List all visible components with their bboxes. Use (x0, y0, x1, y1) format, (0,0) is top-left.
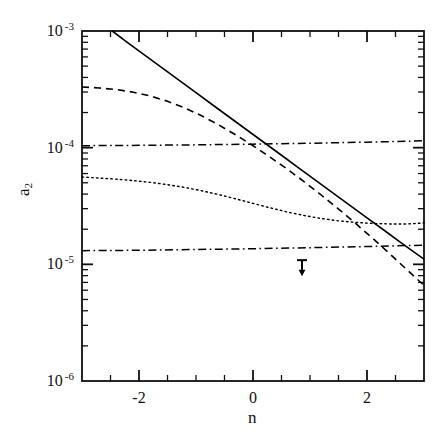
x-tick-label: -2 (125, 389, 153, 407)
y-tick-exponent: -6 (65, 370, 74, 382)
y-tick-exponent: -5 (65, 253, 74, 265)
y-tick-label: 10-6 (16, 370, 74, 390)
y-tick-mantissa: 10 (47, 256, 63, 273)
y-tick-mantissa: 10 (47, 22, 63, 39)
y-tick-label: 10-4 (16, 137, 74, 157)
y-tick-label: 10-3 (16, 20, 74, 40)
x-tick-label: 2 (353, 389, 381, 407)
y-tick-label: 10-5 (16, 253, 74, 273)
x-tick-label: 0 (239, 389, 267, 407)
y-axis-label: a2 (14, 183, 34, 196)
x-axis-label: n (248, 408, 257, 428)
y-axis-label-subscript: 2 (22, 183, 34, 189)
y-tick-mantissa: 10 (47, 139, 63, 156)
y-axis-label-base: a (14, 188, 33, 196)
y-tick-exponent: -4 (65, 137, 74, 149)
y-tick-exponent: -3 (65, 20, 74, 32)
y-tick-mantissa: 10 (47, 372, 63, 389)
